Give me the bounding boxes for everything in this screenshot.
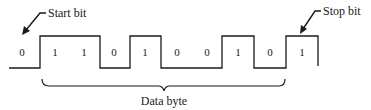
waveform-canvas: 0 1 1 0 1 0 0 1 0 1 Start bit Stop bit D… [0,0,371,110]
bit-value: 0 [19,46,25,58]
data-byte-brace [42,79,285,91]
bit-value: 0 [111,46,117,58]
bit-value: 0 [204,46,210,58]
stop-bit-arrowhead-icon [300,25,307,34]
stop-bit-callout: Stop bit [300,4,361,34]
bit-values: 0 1 1 0 1 0 0 1 0 1 [19,46,305,58]
bit-value: 0 [267,46,273,58]
bit-value: 1 [299,46,305,58]
bit-value: 0 [174,46,180,58]
start-bit-callout: Start bit [22,6,87,35]
bit-value: 1 [142,46,148,58]
serial-frame-diagram: 0 1 1 0 1 0 0 1 0 1 Start bit Stop bit D… [0,0,371,110]
start-bit-arrow-icon [26,13,46,30]
start-bit-label: Start bit [48,6,87,20]
stop-bit-label: Stop bit [323,4,361,18]
bit-value: 1 [235,46,241,58]
data-byte-label: Data byte [141,94,187,108]
bit-value: 1 [52,46,58,58]
stop-bit-arrow-icon [303,11,321,29]
bit-value: 1 [81,46,87,58]
